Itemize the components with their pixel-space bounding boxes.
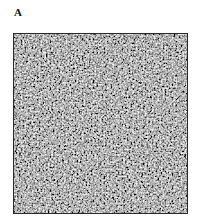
noise-texture bbox=[14, 34, 187, 213]
micrograph-image bbox=[13, 33, 188, 214]
panel-label: A bbox=[14, 7, 22, 18]
